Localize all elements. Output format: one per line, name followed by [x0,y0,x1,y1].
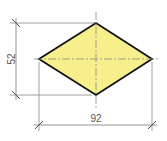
dimension-label-height: 52 [6,53,17,65]
rhombus-diagram: 52 92 [0,0,167,141]
dimension-label-width: 92 [90,113,102,124]
